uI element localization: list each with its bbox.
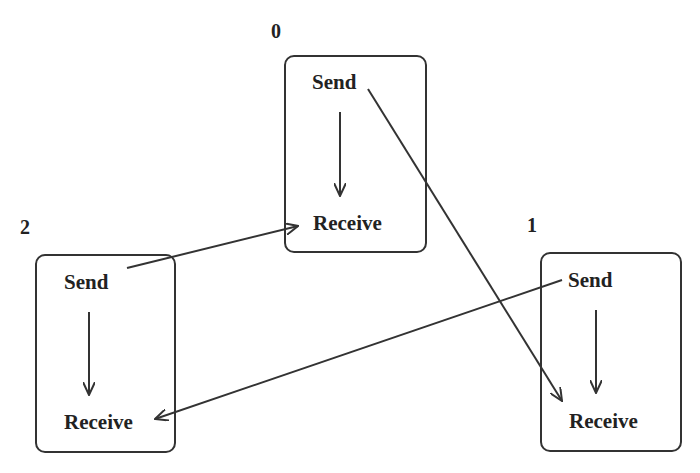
arrow-2-send-to-0-receive bbox=[127, 226, 298, 268]
arrow-0-send-to-1-receive bbox=[368, 89, 562, 401]
arrow-1-send-to-2-receive bbox=[155, 280, 562, 419]
arrows-layer bbox=[0, 0, 700, 473]
